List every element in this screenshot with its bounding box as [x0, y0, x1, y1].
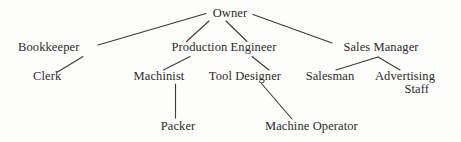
node-packer-label: Packer: [161, 119, 196, 133]
node-production-engineer[interactable]: Production Engineer: [171, 41, 276, 54]
edge-owner-production-engineer-right: [226, 21, 247, 42]
edge-production-engineer-machinist: [164, 57, 191, 71]
node-clerk[interactable]: Clerk: [33, 70, 61, 83]
node-owner-label: Owner: [213, 6, 248, 20]
edge-bookkeeper-clerk: [58, 57, 84, 73]
edge-tool-designer-machine-operator: [261, 83, 292, 119]
node-bookkeeper-label: Bookkeeper: [18, 40, 79, 54]
node-tool-designer-label: Tool Designer: [209, 69, 281, 83]
node-owner[interactable]: Owner: [213, 7, 248, 20]
node-packer[interactable]: Packer: [161, 120, 196, 133]
node-advertising-staff-label-line1: Advertising: [375, 69, 435, 83]
node-clerk-label: Clerk: [33, 69, 61, 83]
edge-production-engineer-tool-designer: [252, 57, 269, 71]
node-machinist[interactable]: Machinist: [134, 70, 185, 83]
node-sales-manager-label: Sales Manager: [343, 40, 418, 54]
node-sales-manager[interactable]: Sales Manager: [343, 41, 418, 54]
node-tool-designer[interactable]: Tool Designer: [209, 70, 281, 83]
node-production-engineer-label: Production Engineer: [171, 40, 276, 54]
org-chart: Owner Bookkeeper Production Engineer Sal…: [0, 0, 461, 142]
node-machine-operator[interactable]: Machine Operator: [265, 120, 358, 133]
edge-owner-sales-manager: [253, 15, 332, 44]
node-advertising-staff-label-line2: Staff: [375, 83, 435, 96]
node-advertising-staff[interactable]: Advertising Staff: [375, 70, 435, 96]
node-salesman-label: Salesman: [306, 69, 355, 83]
node-salesman[interactable]: Salesman: [306, 70, 355, 83]
node-bookkeeper[interactable]: Bookkeeper: [18, 41, 79, 54]
node-machine-operator-label: Machine Operator: [265, 119, 358, 133]
edge-owner-production-engineer-left: [187, 21, 210, 42]
node-machinist-label: Machinist: [134, 69, 185, 83]
